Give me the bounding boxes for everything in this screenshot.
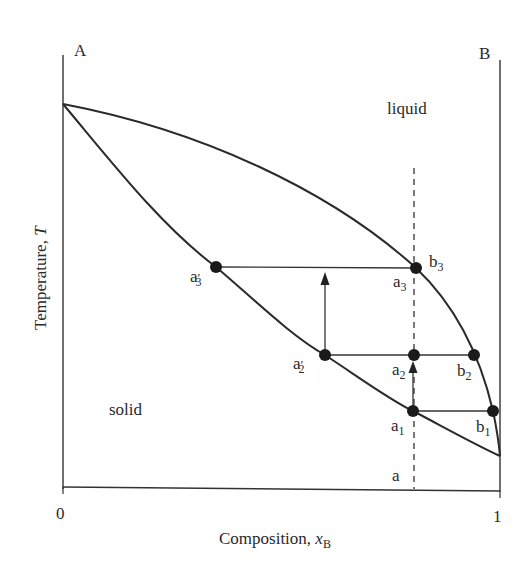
- subscript: 1: [399, 424, 405, 438]
- point-b1: [487, 405, 499, 417]
- subscript: 2: [400, 368, 406, 382]
- point-a2-prime: [319, 349, 331, 361]
- tie-line-3: [216, 267, 416, 268]
- subscript: B: [323, 537, 331, 551]
- y-axis-title: Temperature, T: [31, 226, 51, 330]
- component-b-label: B: [479, 45, 490, 62]
- axis-title-text: Temperature,: [31, 236, 50, 330]
- label-text: b: [457, 361, 466, 380]
- label-isopleth-a: a: [392, 467, 400, 484]
- liquid-region-label: liquid: [387, 100, 427, 117]
- phase-diagram: [0, 0, 527, 566]
- arrowhead-up-icon: [321, 272, 330, 285]
- point-a1: [407, 405, 419, 417]
- solid-region-label: solid: [109, 401, 142, 418]
- point-a3-prime: [210, 261, 222, 273]
- label-text: a: [392, 360, 400, 379]
- label-a2: a2: [392, 361, 406, 378]
- label-a3-prime: a′3: [190, 268, 201, 285]
- subscript: 3: [195, 275, 201, 289]
- axis-variable: x: [315, 529, 323, 548]
- axis-variable: T: [31, 226, 50, 235]
- x-tick-0: 0: [56, 505, 65, 522]
- axis-title-text: Composition,: [219, 529, 315, 548]
- label-text: b: [476, 417, 485, 436]
- x-axis-title: Composition, xB: [219, 530, 331, 547]
- label-a2-prime: a′2: [293, 355, 304, 372]
- label-text: b: [429, 252, 438, 271]
- label-a1: a1: [391, 417, 405, 434]
- x-tick-1: 1: [493, 508, 502, 525]
- x-axis: [63, 487, 500, 491]
- label-b2: b2: [457, 362, 472, 379]
- label-a3: a3: [393, 273, 407, 290]
- subscript: 3: [438, 260, 444, 274]
- label-text: a: [391, 416, 399, 435]
- subscript: 2: [466, 369, 472, 383]
- label-text: a: [393, 272, 401, 291]
- label-b1: b1: [476, 418, 491, 435]
- point-a2: [408, 349, 420, 361]
- label-b3: b3: [429, 253, 444, 270]
- component-a-label: A: [74, 42, 86, 59]
- subscript: 3: [401, 280, 407, 294]
- subscript: 2: [298, 362, 304, 376]
- subscript: 1: [485, 425, 491, 439]
- point-a3-b3: [410, 262, 422, 274]
- point-b2: [468, 349, 480, 361]
- arrowhead-up-icon: [409, 361, 418, 373]
